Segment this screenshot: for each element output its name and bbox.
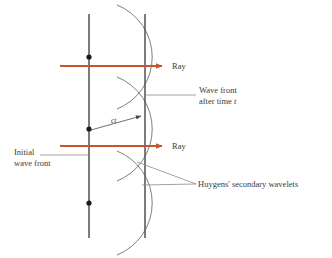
source-point-middle	[86, 126, 91, 131]
huygens-principle-figure: Ray Ray ct Wave front after time t Initi…	[0, 0, 332, 258]
ray-label-top: Ray	[172, 61, 186, 71]
huygens-wavelets-label: Huygens' secondary wavelets	[198, 179, 298, 189]
wave-front-label-line2-prefix: after time	[199, 96, 234, 106]
source-point-top	[86, 54, 91, 59]
initial-wave-front-label-line2: wave front	[14, 158, 51, 168]
source-point-bottom	[86, 200, 91, 205]
wave-front-label-line2: after time t	[199, 96, 237, 106]
wave-front-label-line1: Wave front	[199, 85, 237, 95]
ct-label: ct	[111, 116, 117, 125]
figure-background	[0, 0, 332, 258]
ray-label-bottom: Ray	[172, 141, 186, 151]
initial-wave-front-label-line1: Initial	[14, 147, 35, 157]
